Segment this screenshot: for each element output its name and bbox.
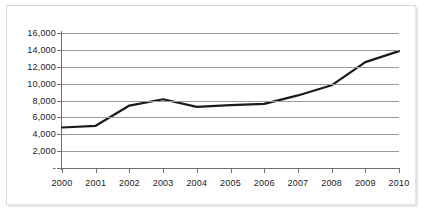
x-tick-mark xyxy=(399,168,400,173)
x-tick-label: 2006 xyxy=(254,178,275,188)
gridline xyxy=(62,67,399,68)
y-tick-mark xyxy=(57,134,62,135)
x-tick-mark xyxy=(264,168,265,173)
y-tick-mark xyxy=(57,67,62,68)
gridline xyxy=(62,134,399,135)
gridline xyxy=(62,117,399,118)
plot-area xyxy=(62,33,399,168)
y-tick-mark xyxy=(57,84,62,85)
y-tick-label: 8,000 xyxy=(32,96,56,106)
y-tick-label: 16,000 xyxy=(27,28,56,38)
y-tick-label: 14,000 xyxy=(27,45,56,55)
x-tick-mark xyxy=(365,168,366,173)
x-tick-mark xyxy=(163,168,164,173)
x-tick-label: 2005 xyxy=(220,178,241,188)
gridline xyxy=(62,84,399,85)
y-tick-label: 10,000 xyxy=(27,79,56,89)
x-tick-mark xyxy=(96,168,97,173)
x-tick-label: 2003 xyxy=(153,178,174,188)
x-tick-mark xyxy=(197,168,198,173)
y-tick-mark xyxy=(57,101,62,102)
gridline xyxy=(62,151,399,152)
y-tick-mark xyxy=(57,151,62,152)
y-tick-mark xyxy=(57,33,62,34)
x-tick-label: 2002 xyxy=(119,178,140,188)
gridline xyxy=(62,33,399,34)
x-tick-label: 2009 xyxy=(355,178,376,188)
x-tick-label: 2001 xyxy=(85,178,106,188)
x-tick-mark xyxy=(231,168,232,173)
x-tick-label: 2008 xyxy=(321,178,342,188)
y-tick-label: 2,000 xyxy=(32,146,56,156)
y-tick-label: 4,000 xyxy=(32,129,56,139)
y-axis-tick-labels: -2,0004,0006,0008,00010,00012,00014,0001… xyxy=(0,0,56,212)
x-tick-mark xyxy=(332,168,333,173)
gridline xyxy=(62,101,399,102)
gridline xyxy=(62,50,399,51)
y-tick-label: 6,000 xyxy=(32,112,56,122)
x-tick-label: 2004 xyxy=(186,178,207,188)
y-tick-mark xyxy=(57,117,62,118)
x-tick-label: 2000 xyxy=(52,178,73,188)
x-tick-mark xyxy=(62,168,63,173)
x-tick-label: 2010 xyxy=(389,178,410,188)
series-polyline xyxy=(62,51,399,127)
x-tick-mark xyxy=(298,168,299,173)
y-tick-label: 12,000 xyxy=(27,62,56,72)
y-tick-label: - xyxy=(53,163,56,173)
y-tick-mark xyxy=(57,50,62,51)
x-tick-mark xyxy=(129,168,130,173)
chart-figure: -2,0004,0006,0008,00010,00012,00014,0001… xyxy=(0,0,424,212)
x-tick-label: 2007 xyxy=(287,178,308,188)
